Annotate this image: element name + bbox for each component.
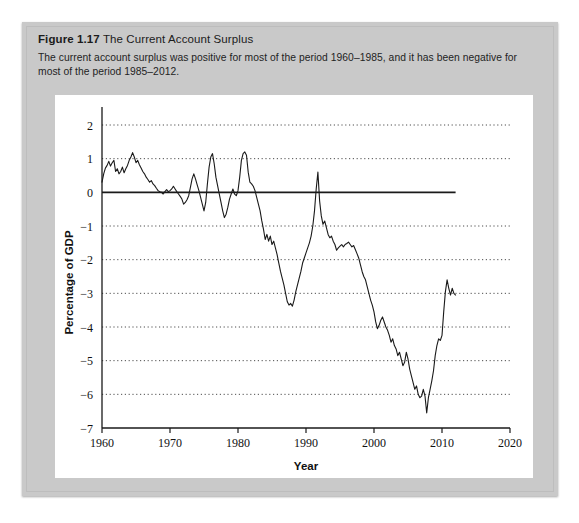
- y-tick-label-1: 1: [87, 152, 93, 166]
- y-tick-label--2: −2: [80, 253, 93, 267]
- y-tick-label-0: 0: [87, 186, 93, 200]
- figure-root: Figure 1.17 The Current Account Surplus …: [0, 0, 579, 523]
- figure-caption-text: The current account surplus was positive…: [38, 51, 542, 79]
- x-axis-title: Year: [294, 460, 319, 472]
- y-tick-label--1: −1: [80, 220, 93, 234]
- x-tick-label-2000: 2000: [362, 436, 386, 450]
- chart-svg: 210−1−2−3−4−5−6−7 1960197019801990200020…: [55, 95, 533, 478]
- x-tick-label-1960: 1960: [90, 436, 114, 450]
- figure-title-text: The Current Account Surplus: [103, 33, 253, 45]
- figure-number: Figure 1.17: [38, 33, 100, 45]
- y-tick-label--4: −4: [80, 321, 93, 335]
- x-tick-label-1980: 1980: [226, 436, 250, 450]
- x-tick-label-2010: 2010: [430, 436, 454, 450]
- x-axis-tick-labels: 1960197019801990200020102020: [90, 436, 522, 450]
- y-axis-tick-labels: 210−1−2−3−4−5−6−7: [80, 119, 93, 436]
- y-axis-title: Percentage of GDP: [63, 230, 75, 334]
- plot-card: 210−1−2−3−4−5−6−7 1960197019801990200020…: [55, 95, 533, 478]
- y-tick-label--6: −6: [80, 388, 93, 402]
- figure-panel: Figure 1.17 The Current Account Surplus …: [22, 22, 558, 496]
- data-series-line: [102, 152, 456, 413]
- figure-caption-block: Figure 1.17 The Current Account Surplus …: [38, 32, 542, 79]
- gridlines-group: [102, 125, 510, 394]
- x-tick-label-2020: 2020: [498, 436, 522, 450]
- y-tick-label--7: −7: [80, 422, 93, 436]
- y-tick-label--3: −3: [80, 287, 93, 301]
- y-tick-label--5: −5: [80, 354, 93, 368]
- figure-title: Figure 1.17 The Current Account Surplus: [38, 32, 542, 47]
- x-tick-label-1990: 1990: [294, 436, 318, 450]
- x-axis-ticks: [102, 428, 510, 433]
- x-tick-label-1970: 1970: [158, 436, 182, 450]
- y-tick-label-2: 2: [87, 119, 93, 133]
- series-line-0: [102, 152, 456, 413]
- axes-group: [102, 107, 510, 428]
